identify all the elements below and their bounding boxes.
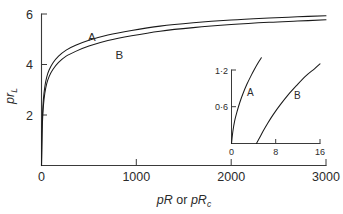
svg-text:prL: prL	[3, 88, 19, 105]
y-axis-label-sub: L	[9, 88, 19, 93]
x-axis-label: pR or pRc	[156, 193, 212, 209]
inset-curve-a	[232, 58, 262, 144]
chart-svg: 6 4 2 0 1000 2000 3000 A B prL pR or pRc…	[0, 0, 343, 214]
x-axis-label-conj: or	[173, 193, 191, 207]
inset-curve-b	[256, 64, 320, 144]
x-tick-label-3000: 3000	[312, 170, 340, 184]
x-axis-label-second-sub: c	[207, 199, 212, 209]
inset-x-tick-label-0: 0	[229, 147, 234, 157]
curve-label-a: A	[88, 31, 96, 43]
y-tick-label-6: 6	[26, 8, 33, 22]
inset-curve-label-b: B	[294, 90, 301, 101]
x-tick-label-2000: 2000	[217, 170, 245, 184]
inset-x-tick-label-8: 8	[273, 147, 278, 157]
inset-y-tick-label-1.2: 1·2	[215, 66, 228, 76]
x-tick-label-0: 0	[38, 170, 45, 184]
inset-chart: 1·2 0·6 0 8 16 A B	[215, 58, 325, 157]
x-axis-label-main: pR	[156, 193, 173, 207]
x-tick-label-1000: 1000	[122, 170, 150, 184]
x-axis-label-second: pR	[190, 193, 207, 207]
curve-label-b: B	[115, 49, 123, 61]
inset-x-tick-label-16: 16	[315, 147, 325, 157]
main-axes	[42, 14, 327, 166]
inset-y-tick-label-0.6: 0·6	[215, 102, 228, 112]
x-ticks	[42, 159, 327, 166]
y-axis-label-main: pr	[3, 92, 17, 105]
y-axis-label: prL	[3, 88, 19, 105]
y-tick-label-4: 4	[26, 58, 33, 72]
figure-container: 6 4 2 0 1000 2000 3000 A B prL pR or pRc…	[0, 0, 343, 214]
y-tick-label-2: 2	[26, 109, 33, 123]
inset-curve-label-a: A	[247, 87, 254, 98]
